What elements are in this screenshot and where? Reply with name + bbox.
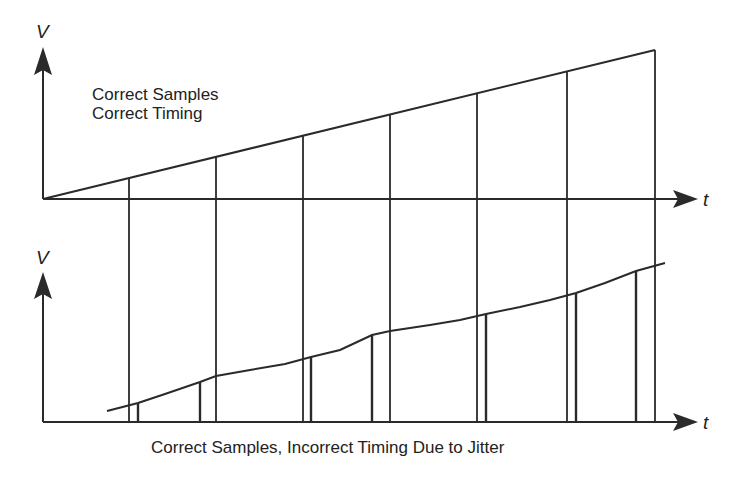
top-ramp-signal	[43, 50, 655, 199]
bottom-x-axis-label: t	[703, 412, 709, 433]
bottom-caption: Correct Samples, Incorrect Timing Due to…	[151, 438, 505, 457]
jitter-diagram: V t Correct Samples Correct Timing V t	[0, 0, 737, 485]
top-caption-line1: Correct Samples	[92, 85, 219, 104]
top-caption-line2: Correct Timing	[92, 104, 203, 123]
top-y-axis-label: V	[36, 21, 51, 42]
top-x-axis-label: t	[703, 189, 709, 210]
bottom-y-axis-label: V	[36, 247, 51, 268]
jittered-sample-lines	[138, 271, 636, 422]
bottom-panel: V t Correct Samples, Incorrect Timing Du…	[34, 247, 709, 457]
bottom-jitter-signal	[107, 263, 665, 411]
